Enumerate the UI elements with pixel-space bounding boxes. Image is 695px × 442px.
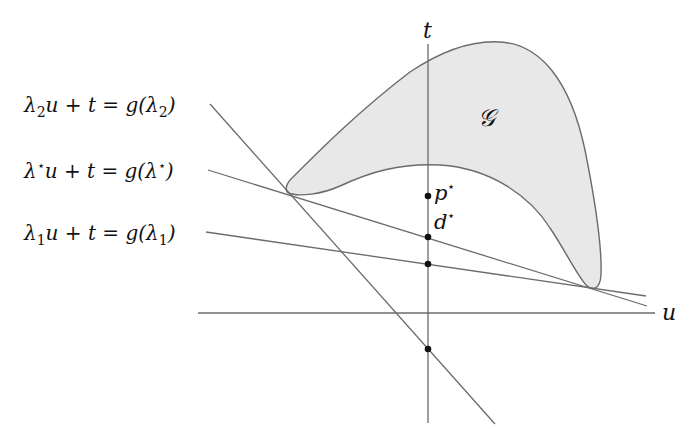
geometric-dual-diagram: t u 𝒢 p⋆ d⋆ λ2u + t = g(λ2) λ⋆u + t = g(… — [0, 0, 695, 442]
point-d-star — [425, 234, 432, 241]
point-lambda2-intercept — [425, 346, 432, 353]
label-lambda1: λ1u + t = g(λ1) — [23, 221, 176, 248]
region-g — [286, 42, 601, 289]
point-lambda1-intercept — [425, 261, 432, 268]
u-axis-label: u — [662, 300, 676, 325]
label-lambda-star: λ⋆u + t = g(λ⋆) — [23, 158, 174, 183]
p-star-label: p⋆ — [434, 179, 455, 205]
label-lambda2: λ2u + t = g(λ2) — [23, 93, 176, 120]
t-axis-label: t — [423, 18, 432, 43]
d-star-label: d⋆ — [434, 208, 455, 234]
point-p-star — [425, 193, 432, 200]
